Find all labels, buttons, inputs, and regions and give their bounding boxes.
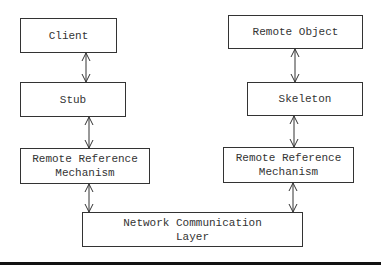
arrow-client-stub [82,53,90,82]
arrow-rrm-right-network [289,183,297,212]
arrow-rrm-left-network [85,184,93,212]
connector-arrows [0,0,381,265]
arrow-skeleton-rrm-right [290,116,298,147]
arrow-stub-rrm-left [85,117,93,148]
arrow-remote-object-skeleton [291,49,299,82]
